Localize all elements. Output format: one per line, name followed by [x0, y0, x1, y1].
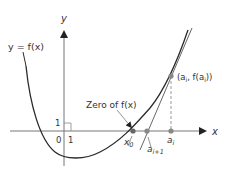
zero-label: Zero of f(x)	[86, 100, 137, 110]
a-i-point	[168, 128, 173, 133]
x0-label: x0	[123, 137, 133, 149]
y-axis-label: y	[60, 13, 68, 24]
x-tick-label: 1	[68, 135, 73, 145]
ai1-label: ai+1	[147, 144, 164, 156]
zero-point	[130, 128, 135, 133]
a-i-plus-1-point	[144, 128, 149, 133]
y-tick-label: 1	[55, 118, 60, 128]
curve-label-leader	[23, 52, 26, 66]
newton-method-diagram: y x y = f(x) 1 0 1 Zero of f(x) x0 ai+1 …	[0, 0, 231, 177]
curve-label: y = f(x)	[8, 41, 44, 52]
origin-label: 0	[56, 135, 61, 145]
unit-tick-marks	[64, 123, 71, 131]
zero-pointer	[117, 110, 131, 127]
point-label: (ai, f(ai))	[177, 72, 212, 83]
tangent-point	[168, 73, 173, 78]
x-axis-label: x	[211, 126, 218, 137]
ai-label: ai	[167, 135, 175, 147]
